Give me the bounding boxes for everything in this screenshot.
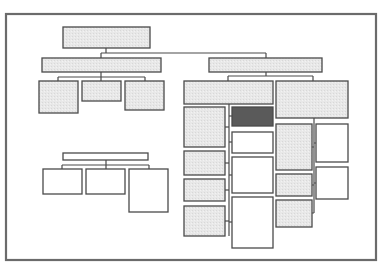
group-a-gray-box-1 (184, 107, 225, 147)
left-branch-child-1 (39, 81, 78, 113)
group-b-gray-box-1 (276, 124, 312, 170)
group-b-gray-box-2 (276, 174, 312, 196)
group-a-white-box-1 (232, 132, 273, 153)
left-branch-child-3 (125, 81, 164, 110)
group-b-gray-box-3 (276, 200, 312, 227)
highlighted-box (232, 107, 273, 126)
group-a-gray-box-3 (184, 179, 225, 201)
left-branch-child-2 (82, 81, 121, 101)
group-a-white-box-3 (232, 197, 273, 248)
standalone-child-1 (43, 169, 82, 194)
right-branch-node (209, 58, 322, 72)
group-a-gray-box-2 (184, 151, 225, 175)
left-branch-node (42, 58, 161, 72)
group-a-gray-box-4 (184, 206, 225, 236)
group-b-white-box-2 (316, 167, 348, 199)
org-chart-diagram (0, 0, 392, 272)
group-b-white-box-1 (316, 124, 348, 162)
standalone-child-3 (129, 169, 168, 212)
root-node (63, 27, 150, 48)
standalone-root-node (63, 153, 148, 160)
group-a-node (184, 81, 273, 104)
standalone-child-2 (86, 169, 125, 194)
group-b-node (276, 81, 348, 118)
group-a-white-box-2 (232, 157, 273, 193)
